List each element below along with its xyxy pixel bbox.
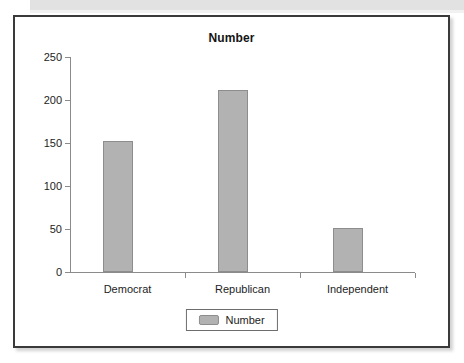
page-scan-band-fade — [30, 10, 464, 13]
chart-legend: Number — [185, 309, 277, 331]
y-tick-label-100: 100 — [44, 180, 62, 192]
legend-label-number: Number — [225, 314, 264, 326]
y-tick-250 — [65, 57, 70, 58]
x-tick-3 — [415, 273, 416, 278]
y-tick-label-200: 200 — [44, 94, 62, 106]
x-label-republican: Republican — [215, 283, 270, 295]
y-tick-150 — [65, 143, 70, 144]
x-label-democrat: Democrat — [104, 283, 152, 295]
chart-title: Number — [15, 31, 448, 45]
x-axis-line — [70, 272, 415, 273]
y-tick-label-50: 50 — [50, 223, 62, 235]
bar-republican — [218, 90, 248, 272]
y-tick-label-150: 150 — [44, 137, 62, 149]
page-scan-band — [30, 0, 464, 10]
x-label-independent: Independent — [327, 283, 388, 295]
x-tick-2 — [300, 273, 301, 278]
plot-area: 050100150200250 DemocratRepublicanIndepe… — [70, 57, 415, 272]
y-tick-0 — [65, 272, 70, 273]
y-axis-line — [70, 57, 71, 273]
y-tick-200 — [65, 100, 70, 101]
bar-independent — [333, 228, 363, 272]
chart-figure-frame: Number 050100150200250 DemocratRepublica… — [13, 15, 450, 348]
y-tick-50 — [65, 229, 70, 230]
y-tick-100 — [65, 186, 70, 187]
legend-swatch-number — [198, 315, 218, 325]
x-tick-1 — [185, 273, 186, 278]
y-tick-label-250: 250 — [44, 51, 62, 63]
bar-democrat — [103, 141, 133, 272]
y-tick-label-0: 0 — [56, 266, 62, 278]
